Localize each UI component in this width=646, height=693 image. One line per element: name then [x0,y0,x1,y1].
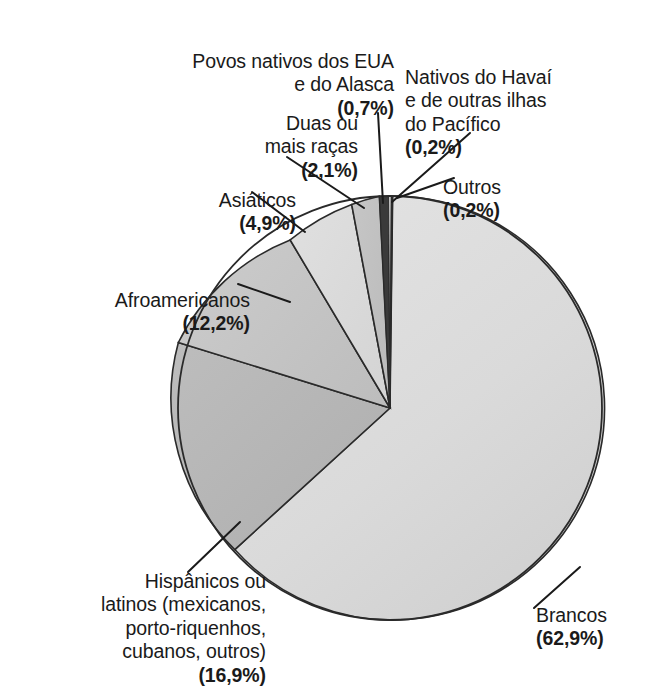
label-nativos-havai: Nativos do Havaí e de outras ilhas do Pa… [405,42,629,160]
label-pct-duas-ou-mais-racas: (2,1%) [301,159,358,181]
label-pct-asiaticos: (4,9%) [239,212,296,234]
label-outros: Outros (0,2%) [443,152,603,223]
label-text-nativos-havai: Nativos do Havaí e de outras ilhas do Pa… [405,66,552,135]
label-text-hispanicos-ou-latinos: Hispânicos ou latinos (mexicanos, porto-… [101,570,266,663]
label-text-asiaticos: Asiáticos [219,189,296,211]
label-pct-brancos: (62,9%) [536,627,604,649]
label-hispanicos-ou-latinos: Hispânicos ou latinos (mexicanos, porto-… [30,546,266,687]
label-asiaticos: Asiáticos (4,9%) [134,165,296,236]
label-pct-afroamericanos: (12,2%) [182,312,250,334]
label-text-afroamericanos: Afroamericanos [115,289,250,311]
label-text-brancos: Brancos [536,604,607,626]
label-pct-outros: (0,2%) [443,199,500,221]
label-brancos: Brancos (62,9%) [536,580,646,651]
chart-canvas: Povos nativos dos EUA e do Alasca (0,7%)… [0,0,646,693]
leader-line-native-us [378,113,383,203]
label-text-outros: Outros [443,176,501,198]
label-pct-hispanicos-ou-latinos: (16,9%) [198,664,266,686]
label-afroamericanos: Afroamericanos (12,2%) [18,265,250,336]
label-text-duas-ou-mais-racas: Duas ou mais raças [265,112,358,158]
